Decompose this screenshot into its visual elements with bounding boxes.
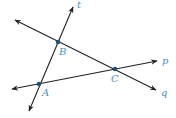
geometry-diagram: tqpABC xyxy=(0,0,176,118)
line-label-t: t xyxy=(77,0,82,10)
point-A xyxy=(37,82,41,86)
line-label-p: p xyxy=(162,55,169,66)
line-label-q: q xyxy=(161,87,167,98)
line-p xyxy=(12,61,157,89)
point-label-B: B xyxy=(58,46,66,57)
line-t xyxy=(29,7,73,111)
lines xyxy=(12,7,157,111)
point-B xyxy=(56,40,60,44)
point-label-C: C xyxy=(111,73,119,84)
point-C xyxy=(113,67,117,71)
point-label-A: A xyxy=(41,87,49,98)
labels: tqpABC xyxy=(41,0,169,98)
line-q xyxy=(15,20,156,90)
